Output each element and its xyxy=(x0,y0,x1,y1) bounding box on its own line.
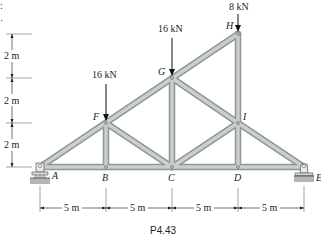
dim-h-2: 5 m xyxy=(130,202,146,213)
pin-C xyxy=(170,165,173,168)
dim-h-4: 5 m xyxy=(262,202,278,213)
dim-h-1: 5 m xyxy=(64,202,80,213)
node-label-H: H xyxy=(225,20,234,31)
node-label-C: C xyxy=(168,172,175,183)
pin-D xyxy=(236,165,239,168)
node-label-D: D xyxy=(233,172,242,183)
dim-v-3: 2 m xyxy=(4,139,20,150)
node-label-B: B xyxy=(102,172,108,183)
load-H-label: 8 kN xyxy=(229,1,249,12)
pin-G xyxy=(170,76,173,79)
corner-mark-top: : xyxy=(0,0,3,11)
pin-I xyxy=(236,121,239,124)
node-label-E: E xyxy=(315,172,321,183)
pin-F xyxy=(104,121,107,124)
node-label-A: A xyxy=(51,170,59,181)
figure-caption: P4.43 xyxy=(150,225,177,236)
corner-mark-bottom: · xyxy=(0,15,3,26)
dim-v-1: 2 m xyxy=(4,50,20,61)
node-label-F: F xyxy=(92,111,100,122)
pin-H xyxy=(236,32,239,35)
vertical-dimensions: 2 m 2 m 2 m xyxy=(4,34,32,167)
load-G-label: 16 kN xyxy=(158,23,183,34)
node-label-I: I xyxy=(242,111,247,122)
pin-B xyxy=(104,165,107,168)
dim-v-2: 2 m xyxy=(4,95,20,106)
truss-diagram: : · xyxy=(0,0,321,238)
load-F-label: 16 kN xyxy=(92,69,117,80)
dim-h-3: 5 m xyxy=(196,202,212,213)
node-label-G: G xyxy=(158,66,165,77)
horizontal-dimensions: 5 m 5 m 5 m 5 m xyxy=(40,186,304,213)
